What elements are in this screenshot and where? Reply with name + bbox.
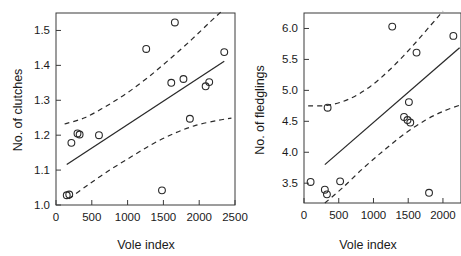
upper-confidence-band [65, 10, 223, 124]
plot-frame [56, 13, 235, 205]
data-point [389, 23, 396, 30]
data-point [206, 79, 213, 86]
data-point [413, 49, 420, 56]
x-axis-title: Vole index [339, 238, 397, 252]
y-axis-title: No. of clutches [11, 69, 25, 152]
y-tick-label: 4.0 [282, 146, 298, 158]
y-axis-ticks [56, 30, 61, 205]
data-point [426, 189, 433, 196]
y-tick-label: 1.4 [34, 59, 51, 71]
data-points [307, 23, 457, 198]
data-points [63, 19, 227, 199]
x-axis-ticks [56, 200, 235, 205]
plot-fledglings: 3.54.04.55.05.56.0 0500100015002000 Vole… [240, 0, 461, 256]
panel-clutches: 1.01.11.21.31.41.5 05001000150020002500 … [0, 0, 240, 256]
x-axis-tick-labels: 0500100015002000 [301, 209, 456, 221]
x-tick-label: 500 [82, 211, 101, 223]
data-point [180, 76, 187, 83]
data-point [337, 178, 344, 185]
data-point [171, 19, 178, 26]
x-tick-label: 1000 [115, 211, 141, 223]
figure-two-panel-scatter: 1.01.11.21.31.41.5 05001000150020002500 … [0, 0, 461, 256]
plot-area-clutches: 1.01.11.21.31.41.5 05001000150020002500 [34, 10, 248, 223]
data-point [159, 187, 166, 194]
x-tick-label: 0 [53, 211, 59, 223]
lower-confidence-band [69, 118, 232, 199]
x-tick-label: 1500 [395, 209, 421, 221]
data-point [68, 139, 75, 146]
regression-line [67, 61, 225, 164]
y-tick-label: 5.0 [282, 84, 298, 96]
y-tick-label: 1.1 [34, 164, 50, 176]
y-axis-title: No. of fledglings [253, 65, 267, 155]
data-point [221, 49, 228, 56]
plot-clutches: 1.01.11.21.31.41.5 05001000150020002500 … [0, 0, 240, 256]
x-tick-label: 2000 [430, 209, 456, 221]
y-tick-label: 3.5 [282, 177, 298, 189]
data-point [168, 79, 175, 86]
y-tick-label: 5.5 [282, 53, 298, 65]
x-tick-label: 2000 [186, 211, 212, 223]
x-tick-label: 1500 [151, 211, 177, 223]
data-point [96, 132, 103, 139]
data-point [307, 179, 314, 186]
x-tick-label: 1000 [361, 209, 387, 221]
y-tick-label: 1.2 [34, 129, 50, 141]
y-axis-tick-labels: 3.54.04.55.05.56.0 [282, 22, 298, 189]
data-point [143, 46, 150, 53]
plot-frame [304, 13, 461, 203]
data-point [450, 33, 457, 40]
regression-line [325, 48, 460, 165]
data-point [186, 115, 193, 122]
x-tick-label: 0 [301, 209, 307, 221]
panel-fledglings: 3.54.04.55.05.56.0 0500100015002000 Vole… [240, 0, 461, 256]
data-point [76, 131, 83, 138]
data-point [406, 99, 413, 106]
y-tick-label: 1.0 [34, 199, 50, 211]
lower-confidence-band [325, 105, 460, 203]
y-axis-tick-labels: 1.01.11.21.31.41.5 [34, 24, 51, 211]
y-tick-label: 1.5 [34, 24, 50, 36]
upper-confidence-band [308, 11, 443, 106]
y-tick-label: 1.3 [34, 94, 50, 106]
data-point [202, 83, 209, 90]
x-tick-label: 500 [329, 209, 348, 221]
y-tick-label: 6.0 [282, 22, 298, 34]
x-axis-title: Vole index [117, 238, 175, 252]
plot-area-fledglings: 3.54.04.55.05.56.0 0500100015002000 [282, 11, 461, 221]
x-axis-tick-labels: 05001000150020002500 [53, 211, 248, 223]
y-tick-label: 4.5 [282, 115, 298, 127]
